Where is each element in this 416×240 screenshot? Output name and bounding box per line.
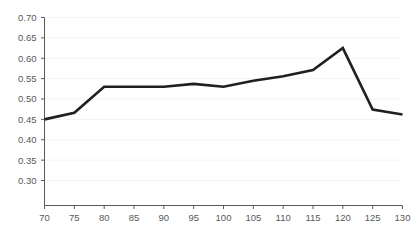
y-tick-label: 0.70 [18, 12, 37, 23]
y-tick-label: 0.40 [18, 134, 37, 145]
x-tick-label: 85 [129, 212, 140, 223]
y-tick-marks [41, 18, 45, 181]
x-tick-label: 125 [365, 212, 381, 223]
x-tick-label: 105 [245, 212, 261, 223]
y-tick-label: 0.50 [18, 93, 37, 104]
y-tick-label: 0.65 [18, 32, 37, 43]
x-tick-label: 100 [216, 212, 232, 223]
series-group [45, 48, 403, 119]
x-tick-label: 120 [335, 212, 351, 223]
y-tick-label: 0.30 [18, 175, 37, 186]
x-tick-marks [45, 206, 403, 210]
x-tick-label: 110 [276, 212, 291, 223]
y-tick-label: 0.60 [18, 53, 37, 64]
y-axis: 0.300.350.400.450.500.550.600.650.70 [18, 12, 45, 206]
data-series-line [45, 48, 403, 119]
x-tick-label: 115 [305, 212, 320, 223]
line-chart: 0.300.350.400.450.500.550.600.650.70 707… [0, 0, 416, 240]
x-axis: 707580859095100105110115120125130 [39, 206, 410, 223]
y-tick-label: 0.55 [18, 73, 37, 84]
x-tick-label: 70 [39, 212, 50, 223]
y-tick-label: 0.35 [18, 155, 37, 166]
x-tick-label: 90 [159, 212, 170, 223]
gridlines-group [45, 18, 403, 181]
x-tick-label: 80 [99, 212, 110, 223]
x-tick-labels: 707580859095100105110115120125130 [39, 212, 410, 223]
x-tick-label: 75 [69, 212, 80, 223]
x-tick-label: 95 [188, 212, 199, 223]
y-tick-labels: 0.300.350.400.450.500.550.600.650.70 [18, 12, 37, 186]
chart-canvas: 0.300.350.400.450.500.550.600.650.70 707… [0, 0, 416, 240]
x-tick-label: 130 [395, 212, 411, 223]
y-tick-label: 0.45 [18, 114, 37, 125]
